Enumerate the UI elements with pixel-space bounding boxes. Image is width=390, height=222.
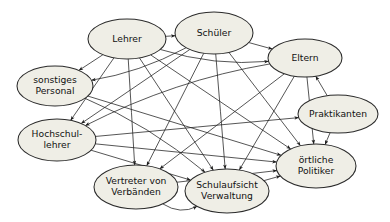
node-sonstiges-personal[interactable]: sonstigesPersonal xyxy=(17,66,93,106)
node-shape-schueler xyxy=(175,12,253,54)
node-shape-vertreter-verbaende xyxy=(94,165,178,209)
node-oertliche-politiker[interactable]: örtlichePolitiker xyxy=(276,144,356,188)
node-schueler[interactable]: Schüler xyxy=(175,12,253,54)
node-eltern[interactable]: Eltern xyxy=(268,39,342,77)
edge-lehrer-oertliche-politiker xyxy=(151,55,291,149)
node-lehrer[interactable]: Lehrer xyxy=(88,19,166,59)
edge-praktikanten-oertliche-politiker xyxy=(325,133,330,145)
node-shape-lehrer xyxy=(88,19,166,59)
edge-lehrer-vertreter-verbaende xyxy=(128,59,134,165)
node-hochschullehrer[interactable]: Hochschul-lehrer xyxy=(18,119,96,161)
node-shape-schulaufsicht xyxy=(185,169,269,213)
edge-schulaufsicht-oertliche-politiker xyxy=(264,176,280,181)
stakeholder-network-diagram: LehrerSchülerElternsonstigesPersonalPrak… xyxy=(0,0,390,222)
node-layer: LehrerSchülerElternsonstigesPersonalPrak… xyxy=(17,12,378,213)
edge-sonstiges-personal-schulaufsicht xyxy=(85,98,205,172)
edge-lehrer-schulaufsicht xyxy=(139,58,213,170)
edge-sonstiges-personal-oertliche-politiker xyxy=(88,96,281,155)
node-shape-oertliche-politiker xyxy=(276,144,356,188)
node-vertreter-verbaende[interactable]: Vertreter vonVerbänden xyxy=(94,165,178,209)
edge-schueler-eltern xyxy=(249,43,273,50)
node-praktikanten[interactable]: Praktikanten xyxy=(298,95,378,133)
edge-schueler-schulaufsicht xyxy=(216,54,225,169)
node-schulaufsicht[interactable]: SchulaufsichtVerwaltung xyxy=(185,169,269,213)
edge-lehrer-schueler xyxy=(166,36,176,37)
edge-eltern-vertreter-verbaende xyxy=(160,74,285,169)
node-shape-eltern xyxy=(268,39,342,77)
edge-vertreter-verbaende-schulaufsicht xyxy=(163,204,197,210)
node-shape-hochschullehrer xyxy=(18,119,96,161)
node-shape-sonstiges-personal xyxy=(17,66,93,106)
edge-praktikanten-eltern xyxy=(316,76,328,96)
node-shape-praktikanten xyxy=(298,95,378,133)
network-canvas: LehrerSchülerElternsonstigesPersonalPrak… xyxy=(0,0,390,222)
edge-lehrer-sonstiges-personal xyxy=(79,55,103,71)
